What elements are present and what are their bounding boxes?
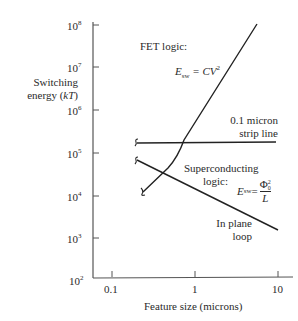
fet-equation: Esw = CV2 — [175, 62, 220, 83]
superconducting-equation: Esw = Φ20 L — [237, 178, 271, 204]
y-tick-label: 107 — [67, 59, 82, 75]
fet-logic-label: FET logic: — [140, 40, 187, 53]
y-tick-label: 102 — [69, 272, 84, 288]
y-tick-label: 105 — [67, 145, 82, 161]
y-ticks — [93, 25, 99, 238]
x-ticks — [112, 271, 278, 277]
y-axis-title-line2: energy (kT) — [16, 89, 78, 102]
y-tick-label: 106 — [67, 102, 82, 118]
fet-break-mark — [141, 188, 145, 195]
x-axis — [93, 277, 293, 278]
x-tick-label: 1 — [192, 283, 198, 296]
y-tick-label: 103 — [67, 230, 82, 246]
x-tick-label: 0.1 — [104, 283, 118, 296]
y-tick-label: 108 — [67, 17, 82, 33]
in-plane-loop-label: In plane loop — [208, 217, 252, 243]
y-axis-title: Switching energy (kT) — [16, 76, 78, 102]
x-axis-title: Feature size (microns) — [144, 300, 242, 313]
y-tick-label: 104 — [67, 188, 82, 204]
y-axis-title-line1: Switching — [16, 76, 78, 89]
x-tick-label: 10 — [272, 283, 283, 296]
strip-line-label: 0.1 micron strip line — [226, 114, 278, 140]
strip-line — [137, 142, 276, 143]
